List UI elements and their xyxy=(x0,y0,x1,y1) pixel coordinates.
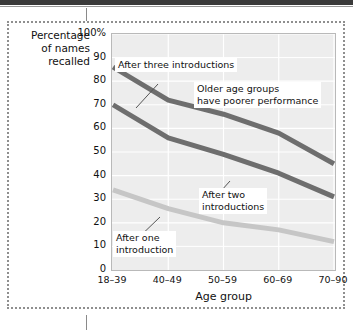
y-tick-label: 20 xyxy=(76,216,106,227)
crop-tick-bottom xyxy=(86,315,87,330)
y-tick-label: 30 xyxy=(76,192,106,203)
x-tick-label: 70–90 xyxy=(311,274,353,285)
y-tick-label: 80 xyxy=(76,74,106,85)
annotation-older-age-groups: Older age groups have poorer performance xyxy=(194,82,321,108)
y-tick-label: 60 xyxy=(76,121,106,132)
x-tick-label: 18–39 xyxy=(90,274,134,285)
y-tick-label: 100% xyxy=(70,27,106,38)
annotation-after-one-introduction: After one introduction xyxy=(113,231,176,257)
x-tick-label: 40–49 xyxy=(145,274,189,285)
x-axis-title: Age group xyxy=(111,290,336,303)
x-tick-label: 60–69 xyxy=(256,274,300,285)
y-tick-label: 40 xyxy=(76,169,106,180)
page-top-bar-underline xyxy=(0,6,353,7)
y-tick-label: 0 xyxy=(76,263,106,274)
y-tick-label: 70 xyxy=(76,98,106,109)
y-tick-label: 50 xyxy=(76,145,106,156)
annotation-after-two-introductions: After two introductions xyxy=(199,188,267,214)
annotation-after-three-introductions: After three introductions xyxy=(115,58,237,72)
y-tick-label: 90 xyxy=(76,51,106,62)
page-top-bar xyxy=(0,0,353,5)
x-tick-label: 50–59 xyxy=(201,274,245,285)
y-tick-label: 10 xyxy=(76,239,106,250)
